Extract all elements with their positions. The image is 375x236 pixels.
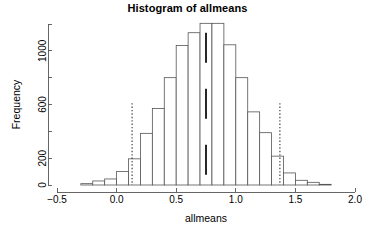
histogram-bar	[140, 133, 152, 185]
histogram-bar	[295, 180, 307, 185]
histogram-bar	[260, 133, 272, 185]
histogram-bar	[117, 172, 129, 185]
histogram-plot: Histogram of allmeans −0.50.00.51.01.52.…	[0, 0, 375, 236]
histogram-bar	[272, 156, 284, 185]
histogram-bar	[283, 173, 295, 185]
histogram-bar	[248, 112, 260, 185]
histogram-bar	[212, 23, 224, 185]
x-tick-label: 1.5	[288, 194, 302, 205]
x-axis-title: allmeans	[185, 212, 227, 224]
x-tick-label: 2.0	[348, 194, 362, 205]
histogram-bar	[188, 33, 200, 185]
histogram-bar	[105, 179, 117, 185]
x-tick-label: 0.5	[169, 194, 183, 205]
y-tick-label: 0	[37, 182, 48, 188]
x-tick-label: 0.0	[110, 194, 124, 205]
histogram-bar	[152, 109, 164, 185]
histogram-bar	[129, 159, 141, 185]
histogram-bar	[176, 45, 188, 185]
histogram-bar	[164, 78, 176, 185]
x-tick-label: 1.0	[229, 194, 243, 205]
histogram-bar	[307, 182, 319, 185]
histogram-bar	[81, 184, 93, 185]
histogram-bar	[224, 45, 236, 185]
y-tick-label: 200	[37, 149, 48, 166]
histogram-bar	[236, 78, 248, 185]
y-tick-label: 1000	[37, 39, 48, 62]
y-axis-title: Frequency	[10, 79, 22, 129]
y-tick-label: 600	[37, 96, 48, 113]
chart-canvas: −0.50.00.51.01.52.002006001000allmeansFr…	[0, 0, 375, 236]
histogram-bar	[319, 184, 331, 185]
x-tick-label: −0.5	[47, 194, 67, 205]
histogram-bar	[93, 181, 105, 185]
